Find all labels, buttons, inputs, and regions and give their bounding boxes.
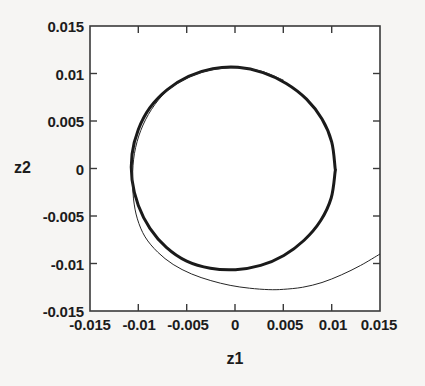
y-tick-label: 0.015 (12, 18, 84, 35)
x-tick-label: -0.005 (167, 316, 208, 333)
x-tick-label: 0.015 (361, 316, 398, 333)
y-tick-label: 0.005 (12, 113, 84, 130)
x-tick-label: 0.005 (267, 316, 304, 333)
y-axis-title: z2 (14, 159, 31, 177)
x-tick-label: -0.015 (69, 316, 110, 333)
y-tick-label: -0.01 (12, 255, 84, 272)
y-tick-label: 0.01 (12, 65, 84, 82)
y-tick-label: -0.005 (12, 208, 84, 225)
x-tick-label: 0.01 (319, 316, 347, 333)
figure-panel: 0.015 0.01 0.005 0 -0.005 -0.01 -0.015 -… (0, 0, 425, 386)
x-axis-title: z1 (227, 350, 244, 368)
x-tick-label: 0 (231, 316, 239, 333)
x-tick-label: -0.01 (122, 316, 155, 333)
